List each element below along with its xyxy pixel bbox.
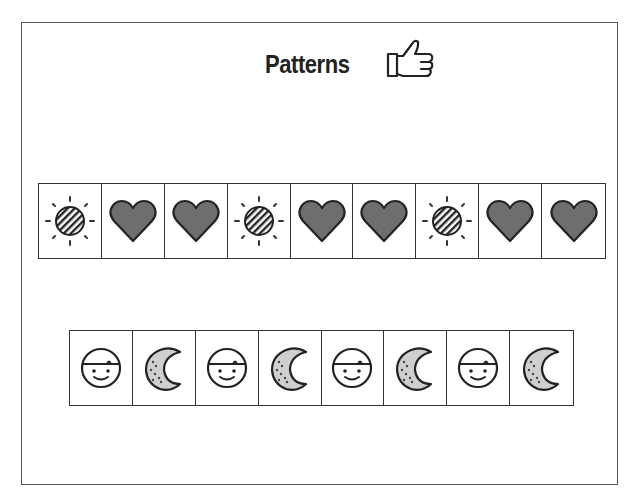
page-title: Patterns (265, 50, 350, 79)
sun-icon (421, 195, 473, 247)
pattern-row-1 (38, 183, 606, 259)
moon-icon (520, 344, 564, 392)
heart-icon (297, 199, 347, 243)
face-icon (456, 346, 500, 390)
pattern-cell (416, 184, 479, 258)
pattern-cell (322, 331, 385, 405)
pattern-cell (479, 184, 542, 258)
pattern-cell (353, 184, 416, 258)
sun-icon (44, 195, 96, 247)
pattern-cell (384, 331, 447, 405)
heart-icon (359, 199, 409, 243)
pattern-cell (165, 184, 228, 258)
heart-icon (549, 199, 599, 243)
pattern-cell (259, 331, 322, 405)
sun-icon (233, 195, 285, 247)
pattern-cell (70, 331, 133, 405)
moon-icon (142, 344, 186, 392)
pattern-cell (228, 184, 291, 258)
moon-icon (393, 344, 437, 392)
pattern-cell (102, 184, 165, 258)
pattern-cell (447, 331, 510, 405)
pattern-cell (133, 331, 196, 405)
pattern-cell (39, 184, 102, 258)
pattern-cell (542, 184, 605, 258)
face-icon (330, 346, 374, 390)
face-icon (205, 346, 249, 390)
heart-icon (108, 199, 158, 243)
pattern-cell (196, 331, 259, 405)
thumbs-up-icon (385, 36, 437, 82)
heart-icon (485, 199, 535, 243)
moon-icon (268, 344, 312, 392)
heart-icon (171, 199, 221, 243)
pattern-row-2 (69, 330, 574, 406)
pattern-cell (291, 184, 354, 258)
face-icon (79, 346, 123, 390)
pattern-cell (510, 331, 573, 405)
